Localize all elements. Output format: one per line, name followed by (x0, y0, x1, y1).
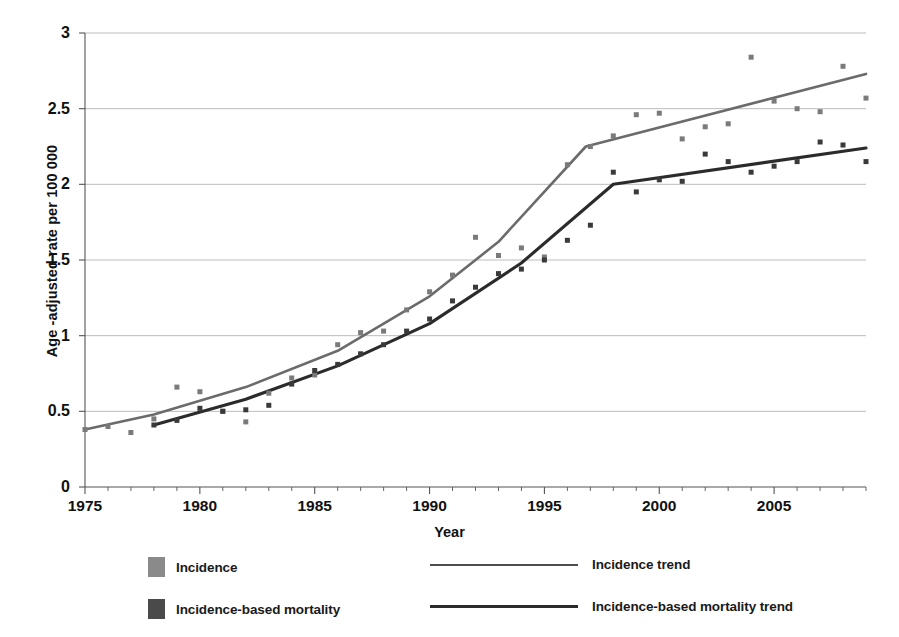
data-point (266, 403, 271, 408)
data-point (795, 159, 800, 164)
data-point (220, 409, 225, 414)
data-point (381, 329, 386, 334)
data-point (611, 170, 616, 175)
data-point (83, 427, 88, 432)
data-point (864, 96, 869, 101)
data-point (450, 298, 455, 303)
data-point (128, 430, 133, 435)
data-point (404, 307, 409, 312)
data-point (519, 245, 524, 250)
data-point (680, 136, 685, 141)
trend-line-incidence (85, 74, 866, 430)
legend-item-mortality: Incidence-based mortality (148, 599, 340, 619)
legend-swatch-incidence (148, 557, 165, 577)
data-point (565, 162, 570, 167)
data-point (749, 55, 754, 60)
data-point (657, 111, 662, 116)
data-point (197, 406, 202, 411)
legend-swatch-mortality (148, 599, 165, 619)
data-point (197, 389, 202, 394)
legend-line-mortality-trend (430, 605, 578, 608)
data-point (795, 106, 800, 111)
data-point (335, 342, 340, 347)
data-point (473, 235, 478, 240)
data-point (864, 159, 869, 164)
data-point (266, 391, 271, 396)
series-incidence (83, 55, 869, 435)
data-point (381, 342, 386, 347)
data-point (565, 238, 570, 243)
data-point (772, 99, 777, 104)
data-point (542, 258, 547, 263)
data-point (450, 273, 455, 278)
data-point (818, 140, 823, 145)
legend-item-mortality-trend: Incidence-based mortality trend (430, 599, 793, 614)
data-point (634, 189, 639, 194)
legend-label-incidence: Incidence (176, 560, 237, 575)
data-point (611, 133, 616, 138)
series-mortality (151, 140, 868, 428)
data-point (289, 382, 294, 387)
data-point (312, 373, 317, 378)
data-point (312, 368, 317, 373)
data-point (588, 223, 593, 228)
legend-label-mortality: Incidence-based mortality (176, 602, 340, 617)
legend-item-incidence: Incidence (148, 557, 237, 577)
data-point (519, 267, 524, 272)
data-point (151, 423, 156, 428)
data-point (174, 418, 179, 423)
data-point (106, 424, 111, 429)
data-point (427, 289, 432, 294)
data-point (151, 416, 156, 421)
data-point (634, 112, 639, 117)
legend-item-incidence-trend: Incidence trend (430, 557, 690, 572)
data-point (657, 177, 662, 182)
data-point (496, 253, 501, 258)
data-point (749, 170, 754, 175)
data-point (358, 351, 363, 356)
legend-label-mortality-trend: Incidence-based mortality trend (592, 599, 793, 614)
data-point (289, 376, 294, 381)
data-point (680, 179, 685, 184)
data-point (404, 329, 409, 334)
data-point (703, 152, 708, 157)
data-point (726, 121, 731, 126)
data-point (841, 64, 846, 69)
trend-line-mortality (154, 148, 866, 425)
data-point (335, 362, 340, 367)
data-point (818, 109, 823, 114)
legend-label-incidence-trend: Incidence trend (592, 557, 690, 572)
plot-area (0, 0, 899, 637)
data-point (174, 385, 179, 390)
data-point (473, 285, 478, 290)
data-point (496, 271, 501, 276)
data-point (588, 144, 593, 149)
data-point (427, 317, 432, 322)
data-point (726, 159, 731, 164)
data-point (243, 407, 248, 412)
legend-line-incidence-trend (430, 564, 578, 566)
data-point (841, 143, 846, 148)
data-point (243, 419, 248, 424)
chart-figure: Age -adjusted rate per 100 000 Year 00.5… (0, 0, 899, 637)
chart-legend: Incidence Incidence trend Incidence-base… (0, 549, 899, 637)
data-point (772, 164, 777, 169)
data-point (703, 124, 708, 129)
data-point (358, 330, 363, 335)
